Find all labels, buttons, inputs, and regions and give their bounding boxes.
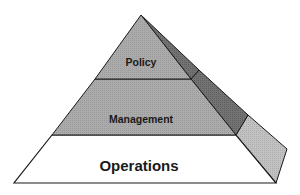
tier-label-policy: Policy xyxy=(126,56,157,68)
tier-label-management: Management xyxy=(109,113,174,125)
pyramid-diagram: Policy Management Operations xyxy=(0,0,300,195)
tier-policy xyxy=(95,15,191,79)
tier-label-operations: Operations xyxy=(99,157,178,174)
